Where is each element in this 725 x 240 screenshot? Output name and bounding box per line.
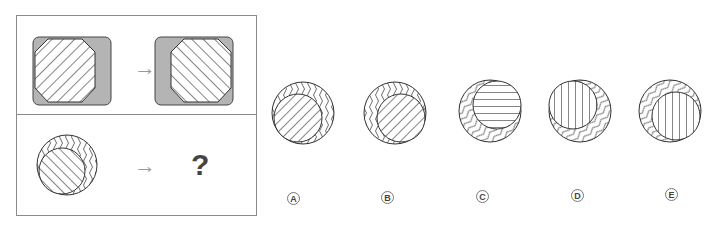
- option-c-label[interactable]: C: [476, 190, 489, 203]
- option-c-figure[interactable]: [457, 78, 523, 144]
- question-mark: ?: [191, 150, 209, 180]
- option-a-figure[interactable]: [270, 80, 336, 146]
- option-a-label[interactable]: A: [287, 192, 300, 205]
- question-from-figure: [34, 134, 100, 200]
- option-b-figure[interactable]: [362, 80, 428, 146]
- example-arrow: →: [134, 57, 156, 79]
- option-e-figure[interactable]: [637, 78, 703, 144]
- option-b-label[interactable]: B: [381, 191, 394, 204]
- panel-divider: [16, 114, 257, 115]
- option-d-figure[interactable]: [547, 78, 613, 144]
- option-e-label[interactable]: E: [665, 188, 678, 201]
- example-from-figure: [32, 36, 112, 106]
- example-to-figure: [154, 36, 234, 106]
- question-arrow: →: [134, 155, 156, 177]
- option-d-label[interactable]: D: [571, 189, 584, 202]
